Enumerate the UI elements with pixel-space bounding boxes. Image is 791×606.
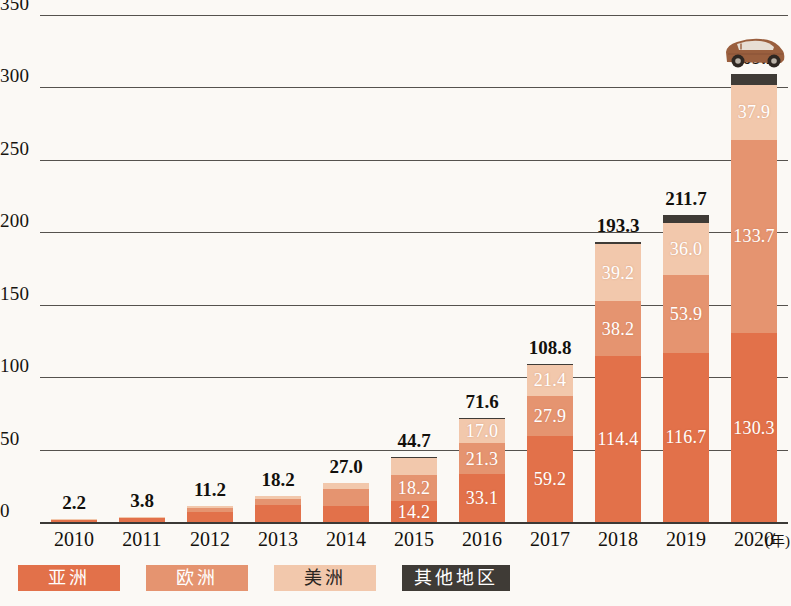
segment-value-label: 53.9	[670, 305, 702, 323]
bar-group[interactable]: 59.227.921.4108.8	[527, 15, 573, 522]
legend-item-欧洲[interactable]: 欧洲	[146, 565, 248, 591]
bar-segment-美洲[interactable]: 12.2	[391, 457, 437, 475]
bar-segment-亚洲[interactable]	[187, 512, 233, 522]
bar-segment-其他地区[interactable]	[595, 242, 641, 244]
bar-segment-亚洲[interactable]: 14.2	[391, 501, 437, 522]
bar-total-label: 108.8	[529, 338, 572, 357]
bar-segment-亚洲[interactable]	[323, 506, 369, 522]
y-axis-tick-label: 300	[0, 66, 36, 85]
bar-segment-美洲[interactable]: 17.0	[459, 419, 505, 444]
segment-value-label: 37.9	[738, 103, 770, 121]
segment-value-label: 114.4	[598, 430, 639, 448]
bar-segment-欧洲[interactable]: 18.2	[391, 475, 437, 501]
bar-group[interactable]: 2.2	[51, 15, 97, 522]
y-axis-tick-label: 350	[0, 0, 36, 13]
legend-item-其他地区[interactable]: 其他地区	[402, 565, 510, 591]
bar-segment-欧洲[interactable]: 133.7	[731, 140, 777, 334]
segment-value-label: 17.0	[466, 422, 498, 440]
bar-segment-美洲[interactable]: 36.0	[663, 223, 709, 275]
segment-value-label: 21.3	[466, 450, 498, 468]
y-axis-tick-label: 0	[0, 501, 36, 520]
segment-value-label: 21.4	[534, 371, 566, 389]
bar-segment-美洲[interactable]: 21.4	[527, 365, 573, 396]
bar-group[interactable]: 114.438.239.2193.3	[595, 15, 641, 522]
bar-total-label: 11.2	[194, 480, 226, 499]
y-axis-tick-label: 250	[0, 139, 36, 158]
bar-segment-亚洲[interactable]	[51, 520, 97, 522]
stacked-bar[interactable]: 130.3133.737.9	[731, 74, 777, 522]
stacked-bar[interactable]: 33.121.317.0	[459, 418, 505, 522]
legend-item-label: 亚洲	[48, 568, 90, 588]
bar-group[interactable]: 116.753.936.0211.7	[663, 15, 709, 522]
bar-total-label: 193.3	[597, 216, 640, 235]
segment-value-label: 116.7	[666, 428, 707, 446]
x-axis-tick-label: 2013	[244, 528, 312, 550]
legend-item-亚洲[interactable]: 亚洲	[18, 565, 120, 591]
stacked-bar[interactable]	[51, 519, 97, 522]
bar-segment-欧洲[interactable]: 53.9	[663, 275, 709, 353]
bar-group[interactable]: 33.121.317.071.6	[459, 15, 505, 522]
bar-segment-欧洲[interactable]: 27.9	[527, 396, 573, 436]
bar-group[interactable]: 12.027.0	[323, 15, 369, 522]
bar-segment-美洲[interactable]	[255, 496, 301, 499]
x-axis-unit-label: (年)	[765, 532, 790, 550]
legend-item-美洲[interactable]: 美洲	[274, 565, 376, 591]
stacked-bar[interactable]: 59.227.921.4	[527, 364, 573, 522]
bar-segment-美洲[interactable]: 37.9	[731, 85, 777, 140]
legend: 亚洲欧洲美洲其他地区	[18, 563, 510, 593]
bar-segment-美洲[interactable]	[119, 517, 165, 518]
stacked-bar[interactable]: 12.0	[323, 483, 369, 522]
bar-segment-欧洲[interactable]	[255, 499, 301, 505]
x-axis-tick-label: 2017	[516, 528, 584, 550]
bar-segment-亚洲[interactable]	[255, 505, 301, 522]
stacked-bar[interactable]	[119, 517, 165, 523]
bar-group[interactable]: 3.8	[119, 15, 165, 522]
bar-segment-亚洲[interactable]	[119, 518, 165, 522]
legend-item-label: 欧洲	[176, 568, 218, 588]
y-axis-tick-label: 150	[0, 284, 36, 303]
bar-segment-欧洲[interactable]	[51, 519, 97, 520]
car-icon	[717, 32, 791, 72]
bar-segment-欧洲[interactable]	[187, 508, 233, 512]
stacked-bar[interactable]: 116.753.936.0	[663, 215, 709, 522]
bar-group[interactable]: 130.3133.737.9309.2	[731, 15, 777, 522]
bar-segment-亚洲[interactable]: 130.3	[731, 333, 777, 522]
stacked-bar[interactable]: 14.218.212.2	[391, 457, 437, 522]
stacked-bar[interactable]	[255, 496, 301, 522]
stacked-bar[interactable]	[187, 506, 233, 522]
axis-baseline	[40, 522, 788, 524]
bar-group[interactable]: 11.2	[187, 15, 233, 522]
plot-area: 050100150200250300350 2.23.811.218.212.0…	[40, 15, 788, 522]
bar-segment-亚洲[interactable]: 33.1	[459, 474, 505, 522]
bar-segment-欧洲[interactable]: 21.3	[459, 443, 505, 474]
stacked-bar[interactable]: 114.438.239.2	[595, 242, 641, 522]
bar-segment-其他地区[interactable]	[663, 215, 709, 222]
bar-segment-美洲[interactable]: 39.2	[595, 244, 641, 301]
bar-segment-亚洲[interactable]: 114.4	[595, 356, 641, 522]
bar-segment-欧洲[interactable]: 12.0	[323, 489, 369, 506]
bar-segment-欧洲[interactable]	[119, 517, 165, 518]
bar-total-label: 27.0	[329, 457, 362, 476]
segment-value-label: 33.1	[466, 489, 498, 507]
x-axis-tick-label: 2018	[584, 528, 652, 550]
bar-segment-美洲[interactable]	[323, 483, 369, 489]
bar-total-label: 2.2	[62, 493, 86, 512]
segment-value-label: 130.3	[733, 419, 775, 437]
segment-value-label: 133.7	[733, 227, 775, 245]
segment-value-label: 18.2	[398, 479, 430, 497]
x-axis-tick-label: 2010	[40, 528, 108, 550]
bar-group[interactable]: 18.2	[255, 15, 301, 522]
bar-segment-亚洲[interactable]: 59.2	[527, 436, 573, 522]
segment-value-label: 36.0	[670, 240, 702, 258]
x-axis: 2010201120122013201420152016201720182019…	[40, 526, 788, 552]
bar-total-label: 18.2	[261, 470, 294, 489]
x-axis-tick-label: 2016	[448, 528, 516, 550]
segment-value-label: 39.2	[602, 264, 634, 282]
bar-total-label: 211.7	[665, 189, 707, 208]
bar-segment-美洲[interactable]	[187, 506, 233, 508]
bar-segment-欧洲[interactable]: 38.2	[595, 301, 641, 356]
bar-group[interactable]: 14.218.212.244.7	[391, 15, 437, 522]
bar-segment-其他地区[interactable]	[731, 74, 777, 85]
bar-segment-亚洲[interactable]: 116.7	[663, 353, 709, 522]
bar-total-label: 3.8	[130, 491, 154, 510]
